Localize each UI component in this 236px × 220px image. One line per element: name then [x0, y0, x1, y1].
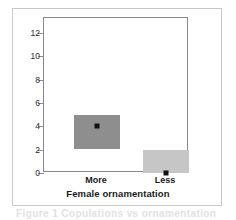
bar-more [74, 115, 120, 149]
y-tick-label: 6 [35, 98, 40, 108]
y-tick-label: 2 [35, 145, 40, 155]
chart-area: Number of copulations 024681012 Female o… [0, 0, 236, 220]
y-tick-label: 8 [35, 75, 40, 85]
plot-inner: 024681012 [44, 18, 187, 171]
x-axis-title: Female ornamentation [0, 188, 236, 199]
y-tick-label: 12 [31, 28, 40, 38]
x-tick-label-less: Less [155, 175, 176, 185]
y-tick-label: 0 [35, 168, 40, 178]
bar-less [143, 150, 189, 173]
figure-caption-sliver: Figure 1 Copulations vs ornamentation [16, 208, 222, 219]
plot-frame: 024681012 [43, 17, 188, 172]
data-point-more [95, 124, 100, 129]
x-tick-label-more: More [85, 175, 107, 185]
y-tick-label: 4 [35, 121, 40, 131]
y-tick-label: 10 [31, 51, 40, 61]
